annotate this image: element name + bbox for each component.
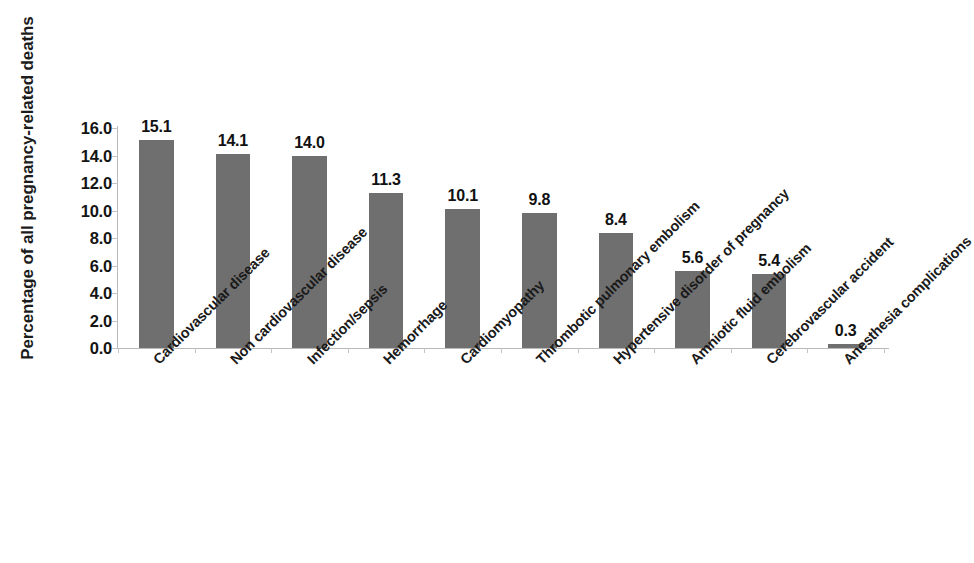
y-axis-tick-label: 4.0 [52,284,112,303]
y-axis-tick-label: 2.0 [52,311,112,330]
x-axis-tick-mark [348,348,349,353]
bar [369,193,403,348]
x-axis-tick-mark [118,348,119,353]
x-axis-tick-mark [501,348,502,353]
bar-value-label: 14.1 [195,132,272,150]
bar [139,140,173,348]
x-axis-tick-mark [424,348,425,353]
bar [216,154,250,348]
x-axis-tick-mark [807,348,808,353]
bar-value-label: 11.3 [348,171,425,189]
bar [445,209,479,348]
x-axis-tick-mark [578,348,579,353]
y-axis-title: Percentage of all pregnancy-related deat… [0,0,56,420]
bar-value-label: 14.0 [271,134,348,152]
y-axis-tick-label: 6.0 [52,256,112,275]
x-axis-tick-mark [731,348,732,353]
y-axis-tick-label: 8.0 [52,229,112,248]
bar [292,156,326,349]
y-axis-tick-label: 12.0 [52,174,112,193]
bar-value-label: 9.8 [501,191,578,209]
bar-value-label: 8.4 [578,211,655,229]
x-axis-tick-mark [271,348,272,353]
y-axis-tick-labels: 16.014.012.010.08.06.04.02.00.0 [52,128,112,348]
y-axis-title-text: Percentage of all pregnancy-related deat… [18,16,38,359]
y-axis-tick-label: 14.0 [52,146,112,165]
x-axis-tick-mark [884,348,885,353]
y-axis-tick-label: 16.0 [52,119,112,138]
bar-value-label: 15.1 [118,118,195,136]
bar-value-label: 10.1 [424,187,501,205]
x-axis-tick-mark [654,348,655,353]
y-axis-tick-label: 0.0 [52,339,112,358]
x-axis-tick-mark [195,348,196,353]
y-axis-tick-label: 10.0 [52,201,112,220]
